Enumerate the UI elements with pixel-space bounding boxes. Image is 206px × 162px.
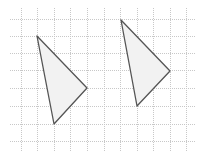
grid-diagram [0,0,206,162]
triangle-left [37,36,87,124]
grid-lines [10,8,196,152]
triangle-right [121,20,170,106]
